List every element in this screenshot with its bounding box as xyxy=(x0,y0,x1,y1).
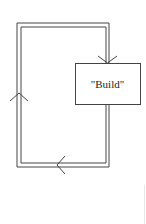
loop-diagram xyxy=(0,0,146,224)
arrow-left-icon xyxy=(57,156,65,174)
diagram-canvas: "Build" xyxy=(0,0,146,224)
build-node-box xyxy=(76,64,141,105)
arrow-up-icon xyxy=(10,93,28,101)
arrow-down-icon xyxy=(98,56,117,63)
